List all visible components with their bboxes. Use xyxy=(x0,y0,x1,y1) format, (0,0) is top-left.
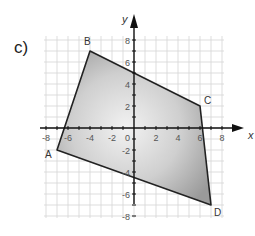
x-tick-label: 4 xyxy=(175,133,180,143)
vertex-label-b: B xyxy=(84,36,91,47)
vertex-label-a: A xyxy=(45,149,52,160)
x-axis-label: x xyxy=(247,129,254,141)
y-tick-label: -6 xyxy=(122,190,130,200)
x-tick-label: -6 xyxy=(64,133,72,143)
y-tick-label: 8 xyxy=(125,36,130,46)
y-tick-label: 6 xyxy=(125,58,130,68)
y-tick-label: -8 xyxy=(122,212,130,222)
coordinate-plane: xy -8-6-4-224688642-2-4-6-80 ABCD xyxy=(0,0,255,236)
x-tick-label: 2 xyxy=(153,133,158,143)
y-tick-label: 2 xyxy=(125,102,130,112)
origin-label: 0 xyxy=(125,133,130,143)
y-tick-label: -4 xyxy=(122,168,130,178)
vertex-label-c: C xyxy=(204,95,211,106)
x-tick-label: -8 xyxy=(42,133,50,143)
y-tick-label: 4 xyxy=(125,80,130,90)
y-tick-label: -2 xyxy=(122,146,130,156)
x-tick-label: -4 xyxy=(86,133,94,143)
y-axis-label: y xyxy=(121,13,129,25)
x-tick-label: -2 xyxy=(108,133,116,143)
vertex-label-d: D xyxy=(214,207,221,218)
x-tick-label: 8 xyxy=(219,133,224,143)
x-tick-label: 6 xyxy=(197,133,202,143)
